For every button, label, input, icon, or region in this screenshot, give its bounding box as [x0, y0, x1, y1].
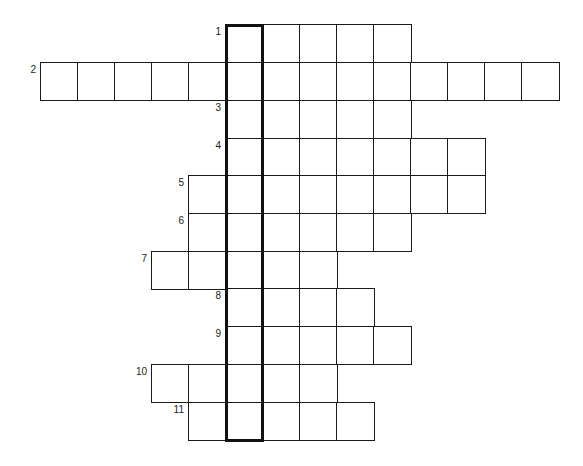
- crossword-cell[interactable]: [225, 100, 264, 139]
- crossword-cell[interactable]: [373, 62, 412, 101]
- crossword-cell[interactable]: [262, 251, 301, 290]
- clue-number: 4: [201, 140, 221, 151]
- crossword-cell[interactable]: [299, 24, 338, 63]
- crossword-cell[interactable]: [336, 402, 375, 441]
- crossword-cell[interactable]: [336, 213, 375, 252]
- crossword-cell[interactable]: [188, 62, 227, 101]
- crossword-cell[interactable]: [336, 100, 375, 139]
- crossword-cell[interactable]: [373, 100, 412, 139]
- crossword-cell[interactable]: [225, 364, 264, 403]
- crossword-cell[interactable]: [151, 251, 190, 290]
- crossword-cell[interactable]: [225, 251, 264, 290]
- crossword-cell[interactable]: [225, 326, 264, 365]
- clue-number: 7: [127, 253, 147, 264]
- crossword-cell[interactable]: [299, 100, 338, 139]
- clue-number: 8: [201, 290, 221, 301]
- crossword-cell[interactable]: [77, 62, 116, 101]
- crossword-cell[interactable]: [188, 364, 227, 403]
- crossword-cell[interactable]: [262, 175, 301, 214]
- crossword-cell[interactable]: [447, 138, 486, 177]
- crossword-cell[interactable]: [225, 24, 264, 63]
- crossword-grid: 1234567891011: [0, 0, 583, 466]
- crossword-cell[interactable]: [336, 138, 375, 177]
- clue-number: 11: [164, 404, 184, 415]
- crossword-cell[interactable]: [114, 62, 153, 101]
- crossword-cell[interactable]: [410, 138, 449, 177]
- crossword-cell[interactable]: [373, 175, 412, 214]
- clue-number: 5: [164, 177, 184, 188]
- clue-number: 10: [127, 366, 147, 377]
- crossword-cell[interactable]: [151, 364, 190, 403]
- crossword-cell[interactable]: [336, 288, 375, 327]
- crossword-cell[interactable]: [262, 213, 301, 252]
- crossword-cell[interactable]: [521, 62, 560, 101]
- crossword-cell[interactable]: [373, 138, 412, 177]
- crossword-cell[interactable]: [410, 62, 449, 101]
- crossword-cell[interactable]: [484, 62, 523, 101]
- crossword-cell[interactable]: [262, 62, 301, 101]
- clue-number: 3: [201, 102, 221, 113]
- crossword-cell[interactable]: [299, 364, 338, 403]
- crossword-cell[interactable]: [299, 288, 338, 327]
- crossword-cell[interactable]: [225, 288, 264, 327]
- crossword-cell[interactable]: [262, 364, 301, 403]
- crossword-cell[interactable]: [188, 402, 227, 441]
- crossword-cell[interactable]: [299, 402, 338, 441]
- crossword-cell[interactable]: [225, 175, 264, 214]
- crossword-cell[interactable]: [373, 213, 412, 252]
- clue-number: 1: [201, 26, 221, 37]
- crossword-cell[interactable]: [225, 138, 264, 177]
- crossword-cell[interactable]: [40, 62, 79, 101]
- crossword-cell[interactable]: [299, 326, 338, 365]
- crossword-cell[interactable]: [225, 402, 264, 441]
- crossword-cell[interactable]: [188, 175, 227, 214]
- crossword-cell[interactable]: [336, 326, 375, 365]
- crossword-cell[interactable]: [262, 402, 301, 441]
- clue-number: 9: [201, 328, 221, 339]
- crossword-cell[interactable]: [336, 62, 375, 101]
- crossword-cell[interactable]: [447, 175, 486, 214]
- crossword-cell[interactable]: [299, 251, 338, 290]
- crossword-cell[interactable]: [299, 138, 338, 177]
- crossword-cell[interactable]: [373, 326, 412, 365]
- crossword-cell[interactable]: [188, 213, 227, 252]
- crossword-cell[interactable]: [299, 62, 338, 101]
- crossword-cell[interactable]: [447, 62, 486, 101]
- crossword-cell[interactable]: [336, 24, 375, 63]
- crossword-cell[interactable]: [188, 251, 227, 290]
- crossword-cell[interactable]: [262, 138, 301, 177]
- crossword-cell[interactable]: [299, 213, 338, 252]
- crossword-cell[interactable]: [151, 62, 190, 101]
- crossword-cell[interactable]: [262, 24, 301, 63]
- crossword-cell[interactable]: [225, 62, 264, 101]
- crossword-cell[interactable]: [373, 24, 412, 63]
- crossword-cell[interactable]: [262, 100, 301, 139]
- crossword-cell[interactable]: [336, 175, 375, 214]
- crossword-cell[interactable]: [410, 175, 449, 214]
- crossword-cell[interactable]: [262, 326, 301, 365]
- crossword-cell[interactable]: [299, 175, 338, 214]
- crossword-cell[interactable]: [225, 213, 264, 252]
- clue-number: 6: [164, 215, 184, 226]
- crossword-cell[interactable]: [262, 288, 301, 327]
- clue-number: 2: [16, 64, 36, 75]
